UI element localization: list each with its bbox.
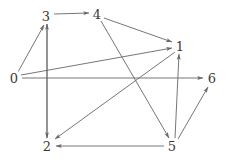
graph-node-3: 3 [41, 10, 51, 23]
graph-edge-3-to-4 [54, 13, 89, 14]
graph-node-6: 6 [207, 72, 217, 85]
edge-layer [18, 13, 208, 146]
graph-edge-1-to-2 [55, 52, 175, 139]
graph-node-0: 0 [9, 72, 19, 85]
graph-edge-5-to-1 [175, 54, 179, 138]
graph-edge-4-to-1 [104, 18, 172, 42]
graph-edge-5-to-6 [178, 87, 208, 139]
graph-diagram: 0123456 [0, 0, 226, 160]
graph-node-4: 4 [92, 8, 102, 21]
graph-node-1: 1 [175, 40, 185, 53]
graph-edges-canvas [0, 0, 226, 160]
graph-edge-0-to-3 [18, 25, 44, 72]
graph-edge-4-to-5 [101, 21, 169, 138]
graph-node-5: 5 [167, 140, 177, 153]
graph-node-2: 2 [42, 140, 52, 153]
